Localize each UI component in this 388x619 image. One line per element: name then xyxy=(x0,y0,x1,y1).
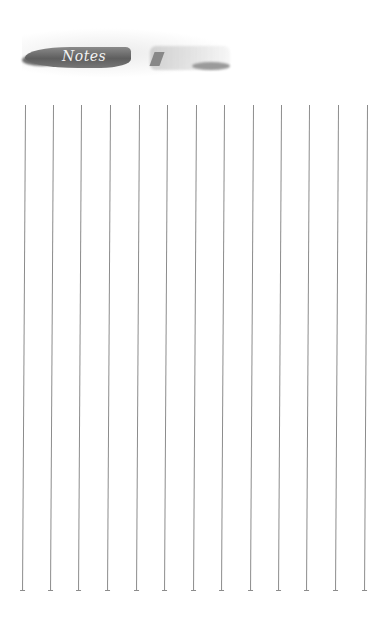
ruled-line xyxy=(136,105,140,590)
ruled-line xyxy=(22,105,26,590)
ruled-line xyxy=(193,105,197,590)
ruled-line xyxy=(250,105,254,590)
ruled-line xyxy=(335,105,339,590)
ruled-line xyxy=(78,105,82,590)
ruled-line xyxy=(107,105,111,590)
ruled-line xyxy=(164,105,168,590)
ruled-lines xyxy=(0,0,388,619)
ruled-line xyxy=(306,105,310,590)
ruled-line xyxy=(364,105,368,590)
ruled-line xyxy=(278,105,282,590)
ruled-line xyxy=(50,105,54,590)
ruled-line xyxy=(221,105,225,590)
